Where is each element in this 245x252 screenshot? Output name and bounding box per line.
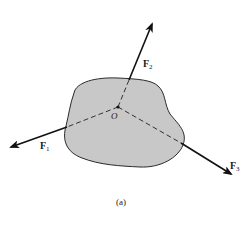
force-diagram-canvas: O F1 F2 F3 (a) — [0, 0, 245, 252]
force-diagram: O F1 F2 F3 (a) — [0, 0, 245, 252]
figure-caption: (a) — [116, 197, 126, 207]
f2-label: F2 — [143, 58, 153, 71]
f2-subscript: 2 — [149, 63, 153, 71]
origin-point — [116, 105, 119, 108]
origin-label: O — [111, 111, 118, 121]
f1-label: F1 — [40, 140, 50, 153]
f3-subscript: 3 — [236, 165, 240, 173]
f3-arrow — [181, 143, 231, 174]
f1-subscript: 1 — [46, 145, 50, 153]
f3-label: F3 — [230, 160, 240, 173]
f2-arrow — [129, 24, 152, 80]
f1-arrow — [11, 127, 67, 147]
